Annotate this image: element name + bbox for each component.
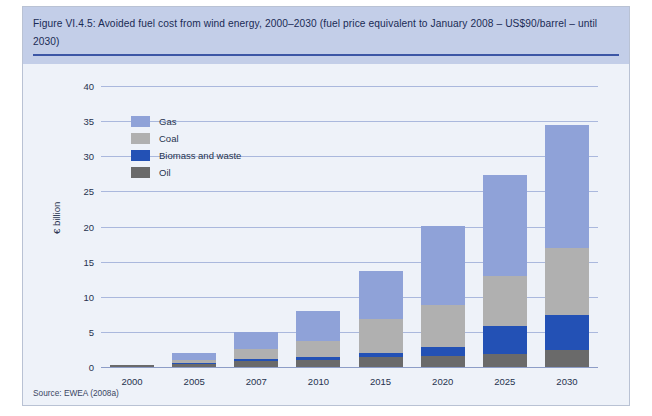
bar-segment-oil[interactable] [110,365,154,367]
legend-swatch-icon [131,133,150,144]
bar-segment-biomass[interactable] [483,326,527,353]
x-axis-tick-label: 2005 [159,376,229,387]
bar-segment-coal[interactable] [545,248,589,315]
bar-segment-biomass[interactable] [545,315,589,350]
source-note: Source: EWEA (2008a) [33,388,119,398]
bar-segment-gas[interactable] [483,175,527,275]
bar-segment-coal[interactable] [234,349,278,359]
legend-swatch-icon [131,116,150,127]
bar-segment-coal[interactable] [421,305,465,346]
chart-legend: GasCoalBiomass and wasteOil [131,114,241,182]
bar-segment-coal[interactable] [172,360,216,363]
bar-segment-oil[interactable] [483,354,527,367]
bar-segment-coal[interactable] [296,341,340,357]
gridline [101,367,598,368]
legend-item[interactable]: Coal [131,131,241,146]
legend-item[interactable]: Oil [131,165,241,180]
y-axis-tick-label: 0 [89,362,94,373]
bar-segment-oil[interactable] [359,357,403,367]
bar-group[interactable] [545,86,589,367]
bar-segment-oil[interactable] [172,364,216,367]
y-axis-tick-label: 20 [83,221,94,232]
y-axis-tick-label: 15 [83,256,94,267]
legend-label: Biomass and waste [159,150,241,161]
bar-segment-oil[interactable] [234,361,278,367]
bar-segment-biomass[interactable] [421,347,465,356]
figure-title-band: Figure VI.4.5: Avoided fuel cost from wi… [23,7,629,64]
x-axis-tick-label: 2010 [283,376,353,387]
y-axis-tick-label: 10 [83,291,94,302]
x-axis-tick-label: 2000 [97,376,167,387]
y-axis-tick-label: 30 [83,151,94,162]
bar-group[interactable] [421,86,465,367]
y-axis-tick-label: 40 [83,81,94,92]
bar-segment-oil[interactable] [421,356,465,367]
x-axis-tick-label: 2015 [346,376,416,387]
bar-segment-gas[interactable] [359,271,403,319]
bar-segment-gas[interactable] [296,311,340,341]
legend-swatch-icon [131,167,150,178]
legend-label: Coal [159,133,179,144]
y-axis-title: € billion [51,202,62,234]
x-axis-tick-label: 2007 [221,376,291,387]
bar-group[interactable] [483,86,527,367]
bar-segment-coal[interactable] [359,319,403,353]
legend-item[interactable]: Gas [131,114,241,129]
bar-segment-oil[interactable] [296,360,340,367]
figure-container: Figure VI.4.5: Avoided fuel cost from wi… [22,6,630,406]
y-axis-tick-label: 25 [83,186,94,197]
bar-segment-gas[interactable] [234,332,278,349]
bar-segment-gas[interactable] [545,125,589,248]
bar-segment-biomass[interactable] [359,353,403,357]
legend-label: Gas [159,116,176,127]
x-axis-tick-label: 2030 [532,376,602,387]
bar-segment-gas[interactable] [421,226,465,305]
bar-segment-biomass[interactable] [234,359,278,361]
title-underline-rule [33,54,619,56]
legend-item[interactable]: Biomass and waste [131,148,241,163]
y-axis-tick-label: 35 [83,116,94,127]
bar-segment-gas[interactable] [172,353,216,360]
bar-segment-coal[interactable] [483,276,527,327]
legend-label: Oil [159,167,171,178]
figure-title: Figure VI.4.5: Avoided fuel cost from wi… [33,15,619,51]
legend-swatch-icon [131,150,150,161]
bar-segment-biomass[interactable] [296,357,340,360]
x-axis-tick-label: 2020 [408,376,478,387]
chart-panel: € billion 0510152025303540 2000200520072… [23,64,629,405]
bar-group[interactable] [296,86,340,367]
bar-segment-oil[interactable] [545,350,589,367]
bar-group[interactable] [359,86,403,367]
x-axis-tick-label: 2025 [470,376,540,387]
bar-segment-biomass[interactable] [172,363,216,365]
y-axis-tick-label: 5 [89,326,94,337]
